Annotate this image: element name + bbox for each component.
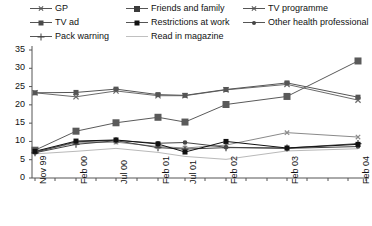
x-tick-label: Feb 01	[162, 156, 171, 184]
series-marker	[183, 150, 188, 155]
x-tick-label: Jul 00	[120, 160, 129, 184]
series-marker	[224, 139, 229, 144]
y-tick-label: 25	[5, 82, 25, 91]
series-marker	[156, 92, 161, 97]
series-marker	[183, 93, 188, 98]
series-marker	[183, 140, 188, 145]
y-tick-label: 15	[5, 118, 25, 127]
series-marker	[356, 142, 361, 147]
series-marker	[74, 90, 79, 95]
x-tick-label: Feb 04	[362, 156, 371, 184]
y-tick-label: 30	[5, 63, 25, 72]
plot-area: 05101520253035Nov 99Feb 00Jul 00Feb 01Ju…	[0, 0, 372, 226]
series-marker	[33, 90, 38, 95]
x-tick-label: Nov 99	[39, 155, 48, 184]
series-marker	[223, 101, 230, 108]
x-tick-label: Feb 03	[291, 156, 300, 184]
x-tick-label: Feb 00	[80, 156, 89, 184]
y-tick-label: 20	[5, 100, 25, 109]
series-marker	[73, 128, 80, 135]
x-tick-label: Jul 01	[189, 160, 198, 184]
y-tick-label: 0	[5, 173, 25, 182]
series-marker	[224, 87, 229, 92]
series-line	[35, 61, 358, 150]
series-marker	[114, 87, 119, 92]
plot-svg	[0, 0, 372, 226]
series-marker	[224, 145, 229, 150]
x-tick-label: Feb 02	[230, 156, 239, 184]
series-marker	[355, 57, 362, 64]
series-marker	[156, 141, 161, 146]
series-marker	[284, 93, 291, 100]
series-lines	[35, 61, 358, 159]
y-tick-label: 10	[5, 136, 25, 145]
series-marker	[113, 119, 120, 126]
series-marker	[155, 114, 162, 121]
series-marker	[33, 149, 38, 154]
series-marker	[114, 137, 119, 142]
y-tick-label: 35	[5, 45, 25, 54]
series-marker	[182, 119, 189, 126]
series-marker	[74, 139, 79, 144]
series-marker	[356, 95, 361, 100]
series-marker	[285, 80, 290, 85]
y-tick-label: 5	[5, 155, 25, 164]
line-chart: GPFriends and familyTV programmeTV adRes…	[0, 0, 372, 226]
series-marker	[285, 146, 290, 151]
